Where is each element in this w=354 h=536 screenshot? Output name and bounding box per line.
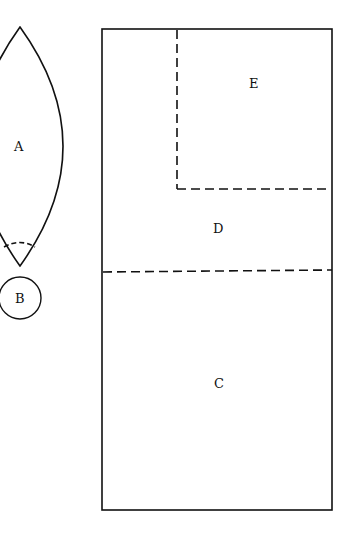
label-b: B	[15, 291, 25, 306]
lens-dashed-arc	[4, 243, 35, 248]
lens-shape-a	[0, 27, 63, 266]
main-rectangle	[102, 29, 332, 510]
diagram-canvas: A B E D C	[0, 0, 354, 536]
region-d-c-dashed-separator	[103, 270, 332, 272]
label-a: A	[13, 139, 24, 154]
label-e: E	[249, 76, 259, 91]
label-d: D	[213, 221, 223, 236]
label-c: C	[214, 376, 224, 391]
